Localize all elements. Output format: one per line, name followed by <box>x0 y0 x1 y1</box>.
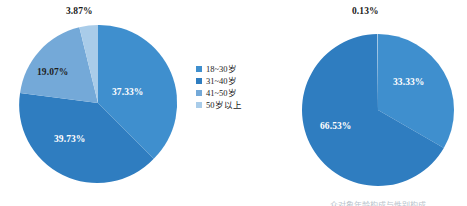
legend-item-50-plus[interactable]: 50岁以上 <box>196 99 252 111</box>
pie-label-right-2: 0.13% <box>352 7 379 17</box>
pie-chart-age-composition <box>0 0 200 206</box>
legend-item-31-40[interactable]: 31~40岁 <box>196 75 252 87</box>
pie-label-right-0: 33.33% <box>393 78 424 88</box>
figure-caption-text: 众对象年龄构成与性别构成 <box>330 201 426 206</box>
legend-item-label: 31~40岁 <box>206 77 237 86</box>
pie-label-right-1: 66.53% <box>320 122 351 132</box>
figure-root: 37.33% 39.73% 19.07% 3.87% 18~30岁 31~40岁… <box>0 0 467 206</box>
pie-label-left-2: 19.07% <box>37 68 68 78</box>
legend-swatch-icon <box>196 102 202 108</box>
figure-caption-clipped: 众对象年龄构成与性别构成 <box>330 197 467 206</box>
pie-label-left-0: 37.33% <box>112 88 143 98</box>
pie-chart-gender-composition <box>255 0 467 206</box>
legend-swatch-icon <box>196 78 202 84</box>
legend-item-label: 50岁以上 <box>206 101 242 110</box>
legend-item-18-30[interactable]: 18~30岁 <box>196 63 252 75</box>
pie-svg-left <box>0 0 200 206</box>
pie-svg-right <box>255 0 467 206</box>
legend-swatch-icon <box>196 66 202 72</box>
legend: 18~30岁 31~40岁 41~50岁 50岁以上 <box>196 63 252 111</box>
legend-item-41-50[interactable]: 41~50岁 <box>196 87 252 99</box>
pie-label-left-1: 39.73% <box>54 135 85 145</box>
legend-swatch-icon <box>196 90 202 96</box>
legend-item-label: 41~50岁 <box>206 89 237 98</box>
pie-label-left-3: 3.87% <box>66 7 93 17</box>
legend-item-label: 18~30岁 <box>206 65 237 74</box>
